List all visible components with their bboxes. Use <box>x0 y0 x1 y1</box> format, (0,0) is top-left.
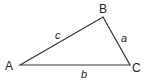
vertex-label-a: A <box>5 59 13 73</box>
side-label-b: b <box>81 68 87 80</box>
vertex-label-c: C <box>132 61 141 75</box>
triangle-abc <box>20 17 130 65</box>
side-label-a: a <box>121 32 127 44</box>
side-label-c: c <box>55 29 61 41</box>
vertex-label-b: B <box>99 2 107 16</box>
triangle-diagram: A B C c a b <box>0 0 146 80</box>
